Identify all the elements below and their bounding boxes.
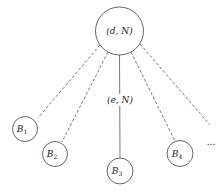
- root-label: (d, N): [106, 26, 133, 36]
- tree-diagram: (e, N) (d, N) B1 B2 B3 B4 ...: [0, 0, 222, 194]
- child-node-b1: B1: [13, 117, 38, 142]
- edge-root-b1: [38, 45, 100, 118]
- edge-root-b2: [62, 52, 108, 142]
- child-node-b3: B3: [107, 158, 133, 184]
- edge-label: (e, N): [107, 95, 133, 105]
- ellipsis: ...: [207, 137, 216, 147]
- edge-root-b3: [120, 55, 121, 158]
- edge-root-more: [140, 44, 210, 125]
- child-node-b2: B2: [43, 142, 68, 167]
- edge-root-b4: [131, 52, 175, 141]
- child-node-b4: B4: [167, 141, 193, 167]
